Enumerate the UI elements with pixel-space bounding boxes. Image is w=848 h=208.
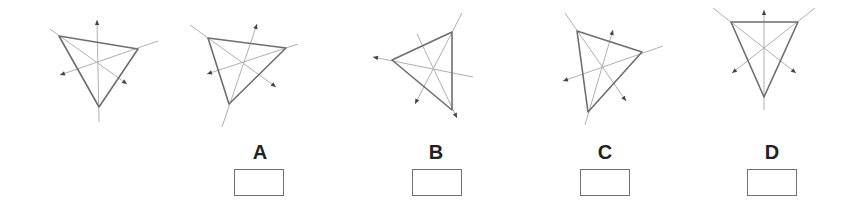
figure-a: [190, 24, 298, 127]
arrowhead-icon: [253, 24, 257, 29]
arrowhead-icon: [373, 56, 378, 60]
symmetry-axis-line: [222, 24, 257, 127]
arrowhead-icon: [122, 79, 127, 84]
arrowhead-icon: [762, 10, 766, 15]
figure-reference: [50, 20, 158, 122]
arrowhead-icon: [563, 77, 568, 81]
symmetry-axis-line: [50, 29, 127, 84]
arrowhead-icon: [207, 70, 212, 74]
arrowhead-icon: [60, 71, 65, 75]
arrowhead-icon: [609, 30, 613, 35]
option-label-b: B: [416, 141, 456, 163]
symmetry-axis-line: [713, 8, 796, 73]
answer-box-b[interactable]: [412, 169, 462, 196]
figure-d: [713, 8, 815, 110]
answer-box-a[interactable]: [234, 169, 284, 196]
arrowhead-icon: [95, 20, 99, 25]
symmetry-axis-line: [373, 57, 473, 77]
arrowhead-icon: [621, 96, 626, 101]
option-label-a: A: [240, 141, 280, 163]
option-label-c: C: [585, 141, 625, 163]
triangle-shape: [208, 38, 286, 104]
option-label-d: D: [752, 141, 792, 163]
answer-box-d[interactable]: [747, 169, 797, 196]
symmetry-axis-line: [563, 46, 663, 81]
triangle-figures: [50, 8, 815, 127]
symmetry-axis-line: [732, 8, 815, 73]
arrowhead-icon: [271, 82, 276, 87]
answer-box-c[interactable]: [580, 169, 630, 196]
symmetry-axis-line: [415, 13, 462, 104]
figure-c: [563, 13, 663, 125]
symmetry-axis-line: [417, 34, 457, 118]
figure-b: [373, 13, 473, 118]
